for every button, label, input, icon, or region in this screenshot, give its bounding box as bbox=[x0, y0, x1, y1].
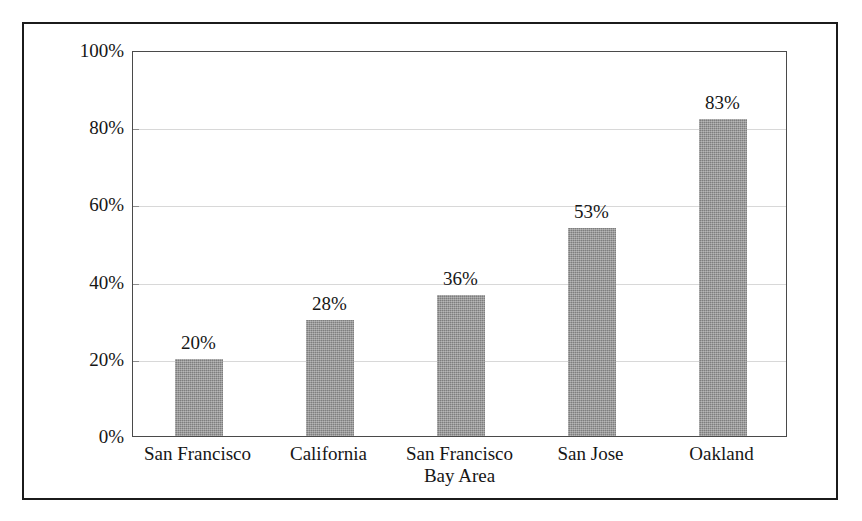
bar-value-label: 36% bbox=[443, 269, 478, 288]
bar-slot: 20% bbox=[133, 52, 264, 436]
bar-value-label: 20% bbox=[181, 333, 216, 352]
y-tick-label: 80% bbox=[89, 118, 124, 137]
bar-slot: 36% bbox=[395, 52, 526, 436]
x-tick-label-line: San Jose bbox=[525, 443, 656, 465]
bar[interactable] bbox=[699, 119, 747, 436]
y-tick-label: 40% bbox=[89, 273, 124, 292]
x-axis: San FranciscoCaliforniaSan FranciscoBay … bbox=[132, 443, 787, 501]
x-tick-label: San Francisco bbox=[132, 443, 263, 465]
y-tick-label: 20% bbox=[89, 350, 124, 369]
chart-figure: 0%20%40%60%80%100% 20%28%36%53%83% San F… bbox=[0, 0, 862, 521]
x-tick-label-line: San Francisco bbox=[394, 443, 525, 465]
bar-slot: 28% bbox=[264, 52, 395, 436]
x-tick-label-line: Oakland bbox=[656, 443, 787, 465]
x-tick-label-line: Bay Area bbox=[394, 465, 525, 487]
y-tick-label: 0% bbox=[99, 427, 124, 446]
y-tick-label: 60% bbox=[89, 195, 124, 214]
x-tick-label: San FranciscoBay Area bbox=[394, 443, 525, 487]
plot-area: 20%28%36%53%83% bbox=[132, 51, 787, 437]
x-tick-label: San Jose bbox=[525, 443, 656, 465]
bar-value-label: 53% bbox=[574, 202, 609, 221]
bar[interactable] bbox=[306, 320, 354, 436]
bar-slot: 83% bbox=[657, 52, 788, 436]
bar-slot: 53% bbox=[526, 52, 657, 436]
bar[interactable] bbox=[568, 228, 616, 436]
x-tick-label: California bbox=[263, 443, 394, 465]
bar-value-label: 28% bbox=[312, 294, 347, 313]
y-axis: 0%20%40%60%80%100% bbox=[0, 0, 124, 521]
bar[interactable] bbox=[437, 295, 485, 436]
y-tick-label: 100% bbox=[80, 41, 124, 60]
x-tick-label: Oakland bbox=[656, 443, 787, 465]
x-tick-label-line: San Francisco bbox=[132, 443, 263, 465]
bar-value-label: 83% bbox=[705, 93, 740, 112]
bar[interactable] bbox=[175, 359, 223, 436]
x-tick-label-line: California bbox=[263, 443, 394, 465]
